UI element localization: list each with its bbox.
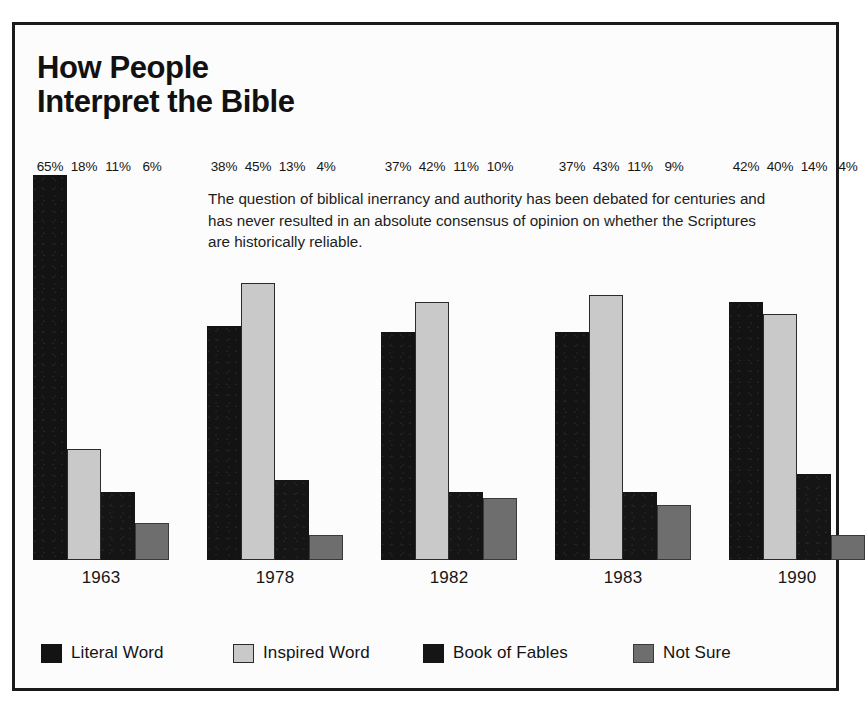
group-label-1983: 1983 bbox=[555, 568, 691, 588]
chart-title-line-1: How People bbox=[37, 51, 537, 85]
bar-rect: 14% bbox=[797, 474, 831, 560]
bar-groups: 65%18%11%6%196338%45%13%4%197837%42%11%1… bbox=[33, 175, 822, 560]
bar-rect: 18% bbox=[67, 449, 101, 560]
bar-rect: 11% bbox=[449, 492, 483, 560]
bar-1978-literal-word: 38% bbox=[207, 175, 241, 560]
legend-item-book-of-fables: Book of Fables bbox=[423, 643, 568, 663]
bar-rect: 42% bbox=[415, 302, 449, 560]
bar-value-label: 4% bbox=[838, 159, 857, 174]
bar-rect: 42% bbox=[729, 302, 763, 560]
bar-value-label: 11% bbox=[105, 159, 130, 174]
legend-swatch-icon bbox=[41, 644, 62, 663]
bar-1978-inspired-word: 45% bbox=[241, 175, 275, 560]
bar-value-label: 18% bbox=[71, 159, 97, 174]
legend-item-literal-word: Literal Word bbox=[41, 643, 164, 663]
legend-label: Not Sure bbox=[663, 643, 731, 663]
bar-rect: 11% bbox=[623, 492, 657, 560]
bar-1982-not-sure: 10% bbox=[483, 175, 517, 560]
bar-group-1982: 37%42%11%10%1982 bbox=[381, 175, 517, 560]
bar-rect: 65% bbox=[33, 175, 67, 560]
legend-swatch-icon bbox=[233, 644, 254, 663]
bar-value-label: 40% bbox=[767, 159, 793, 174]
bar-value-label: 42% bbox=[733, 159, 759, 174]
bar-rect: 45% bbox=[241, 283, 275, 560]
bar-value-label: 9% bbox=[664, 159, 683, 174]
legend-item-inspired-word: Inspired Word bbox=[233, 643, 370, 663]
bar-rect: 6% bbox=[135, 523, 169, 560]
bar-1983-literal-word: 37% bbox=[555, 175, 589, 560]
bar-value-label: 42% bbox=[419, 159, 445, 174]
bar-rect: 9% bbox=[657, 505, 691, 560]
legend-label: Inspired Word bbox=[263, 643, 370, 663]
bar-1983-inspired-word: 43% bbox=[589, 175, 623, 560]
bar-rect: 43% bbox=[589, 295, 623, 560]
legend-label: Literal Word bbox=[71, 643, 164, 663]
chart-figure: How People Interpret the Bible The quest… bbox=[12, 22, 839, 691]
bar-value-label: 37% bbox=[559, 159, 585, 174]
chart-title: How People Interpret the Bible bbox=[37, 51, 537, 119]
bar-value-label: 43% bbox=[593, 159, 619, 174]
bar-1982-inspired-word: 42% bbox=[415, 175, 449, 560]
bar-rect: 4% bbox=[309, 535, 343, 560]
bar-value-label: 65% bbox=[37, 159, 63, 174]
bar-1990-inspired-word: 40% bbox=[763, 175, 797, 560]
bar-1990-not-sure: 4% bbox=[831, 175, 865, 560]
legend-swatch-icon bbox=[423, 644, 444, 663]
bar-1963-literal-word: 65% bbox=[33, 175, 67, 560]
legend-swatch-icon bbox=[633, 644, 654, 663]
bar-1983-not-sure: 9% bbox=[657, 175, 691, 560]
bar-value-label: 11% bbox=[453, 159, 478, 174]
bar-value-label: 45% bbox=[245, 159, 271, 174]
bar-value-label: 4% bbox=[316, 159, 335, 174]
bar-1978-not-sure: 4% bbox=[309, 175, 343, 560]
bar-value-label: 11% bbox=[627, 159, 652, 174]
bar-1982-book-of-fables: 11% bbox=[449, 175, 483, 560]
bar-value-label: 37% bbox=[385, 159, 411, 174]
chart-legend: Literal WordInspired WordBook of FablesN… bbox=[41, 640, 810, 666]
bar-group-1983: 37%43%11%9%1983 bbox=[555, 175, 691, 560]
bar-value-label: 38% bbox=[211, 159, 237, 174]
bar-rect: 40% bbox=[763, 314, 797, 560]
bar-rect: 11% bbox=[101, 492, 135, 560]
bar-1963-not-sure: 6% bbox=[135, 175, 169, 560]
bar-rect: 13% bbox=[275, 480, 309, 560]
bar-rect: 4% bbox=[831, 535, 865, 560]
bar-rect: 38% bbox=[207, 326, 241, 560]
bar-rect: 37% bbox=[381, 332, 415, 560]
bar-group-1990: 42%40%14%4%1990 bbox=[729, 175, 865, 560]
legend-label: Book of Fables bbox=[453, 643, 568, 663]
bar-1963-book-of-fables: 11% bbox=[101, 175, 135, 560]
group-label-1990: 1990 bbox=[729, 568, 865, 588]
bar-value-label: 6% bbox=[142, 159, 161, 174]
bar-value-label: 10% bbox=[487, 159, 513, 174]
bar-1982-literal-word: 37% bbox=[381, 175, 415, 560]
plot-area: 65%18%11%6%196338%45%13%4%197837%42%11%1… bbox=[33, 175, 822, 596]
legend-item-not-sure: Not Sure bbox=[633, 643, 731, 663]
group-label-1963: 1963 bbox=[33, 568, 169, 588]
bar-1983-book-of-fables: 11% bbox=[623, 175, 657, 560]
bar-rect: 10% bbox=[483, 498, 517, 560]
bar-1990-literal-word: 42% bbox=[729, 175, 763, 560]
group-label-1978: 1978 bbox=[207, 568, 343, 588]
bar-rect: 37% bbox=[555, 332, 589, 560]
group-label-1982: 1982 bbox=[381, 568, 517, 588]
bar-1978-book-of-fables: 13% bbox=[275, 175, 309, 560]
bar-1963-inspired-word: 18% bbox=[67, 175, 101, 560]
chart-title-line-2: Interpret the Bible bbox=[37, 85, 537, 119]
bar-value-label: 14% bbox=[801, 159, 827, 174]
bar-value-label: 13% bbox=[279, 159, 305, 174]
bar-1990-book-of-fables: 14% bbox=[797, 175, 831, 560]
bar-group-1963: 65%18%11%6%1963 bbox=[33, 175, 169, 560]
bar-group-1978: 38%45%13%4%1978 bbox=[207, 175, 343, 560]
